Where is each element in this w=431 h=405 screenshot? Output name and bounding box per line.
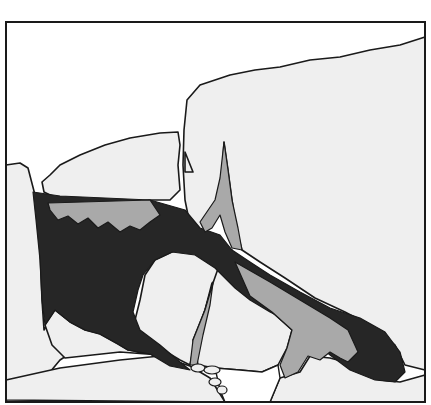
diagram-canvas xyxy=(0,0,431,405)
pebble xyxy=(217,386,227,394)
pebble xyxy=(209,378,221,386)
white-gap xyxy=(215,365,280,402)
pebble xyxy=(204,366,220,374)
pebble xyxy=(191,364,205,372)
megalith-drawing xyxy=(0,0,431,405)
